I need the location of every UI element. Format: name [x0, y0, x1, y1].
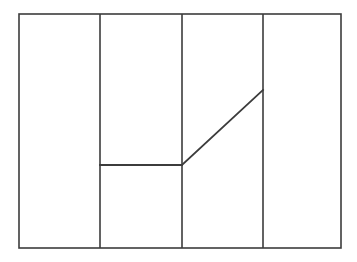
line-figure: [0, 0, 357, 262]
figure-canvas: [0, 0, 357, 262]
plot-background: [0, 0, 357, 262]
